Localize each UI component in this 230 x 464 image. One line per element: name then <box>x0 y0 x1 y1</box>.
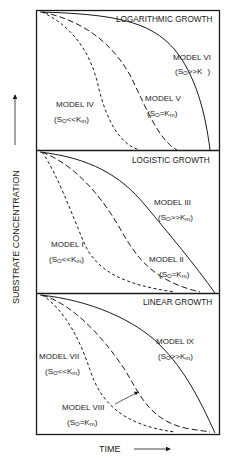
panel-title: LINEAR GROWTH <box>143 298 212 307</box>
y-axis: SUBSTRATE CONCENTRATION <box>11 95 21 304</box>
model-label: MODEL IV <box>56 100 95 109</box>
model-condition: (SO=Km) <box>159 270 190 279</box>
model-label: MODEL IX <box>156 337 195 346</box>
model-label: MODEL VI <box>173 53 211 62</box>
y-axis-label: SUBSTRATE CONCENTRATION <box>11 170 21 304</box>
x-axis: TIME <box>99 444 170 454</box>
model-label: MODEL II <box>149 255 184 264</box>
curve-model-iv <box>42 12 140 150</box>
panel-logarithmic-growth: LOGARITHMIC GROWTH MODEL VI (SO>>K ) MOD… <box>40 12 213 150</box>
curve-model-ix <box>40 295 215 433</box>
model-label: MODEL I <box>51 240 84 249</box>
substrate-depletion-diagram: SUBSTRATE CONCENTRATION TIME LOGARITHMIC… <box>0 0 230 464</box>
panel-title: LOGISTIC GROWTH <box>132 156 210 165</box>
model-label: MODEL V <box>145 94 181 103</box>
model-condition: (SO<<Km) <box>45 367 80 376</box>
model-condition: (SO<<Km) <box>49 255 84 264</box>
panel-logistic-growth: LOGISTIC GROWTH MODEL III (SO>>Km) MODEL… <box>40 152 215 293</box>
model-condition: (SO>>Km) <box>158 352 193 361</box>
model-label: MODEL VIII <box>62 403 104 412</box>
model-condition: (SO=Km) <box>67 418 98 427</box>
model-label: MODEL III <box>154 198 191 207</box>
x-axis-label: TIME <box>99 444 121 454</box>
model-condition: (SO=Km) <box>147 109 178 118</box>
model-condition: (SO<<Km) <box>54 115 89 124</box>
panel-linear-growth: LINEAR GROWTH MODEL IX (SO>>Km) MODEL VI… <box>39 295 215 433</box>
model-condition: (SO>>Km) <box>158 213 193 222</box>
curve-model-vi <box>40 12 210 150</box>
pointer-arrow-icon <box>115 392 138 404</box>
model-condition: (SO>>K ) <box>175 67 211 76</box>
curve-model-v <box>42 12 177 150</box>
model-label: MODEL VII <box>39 352 79 361</box>
